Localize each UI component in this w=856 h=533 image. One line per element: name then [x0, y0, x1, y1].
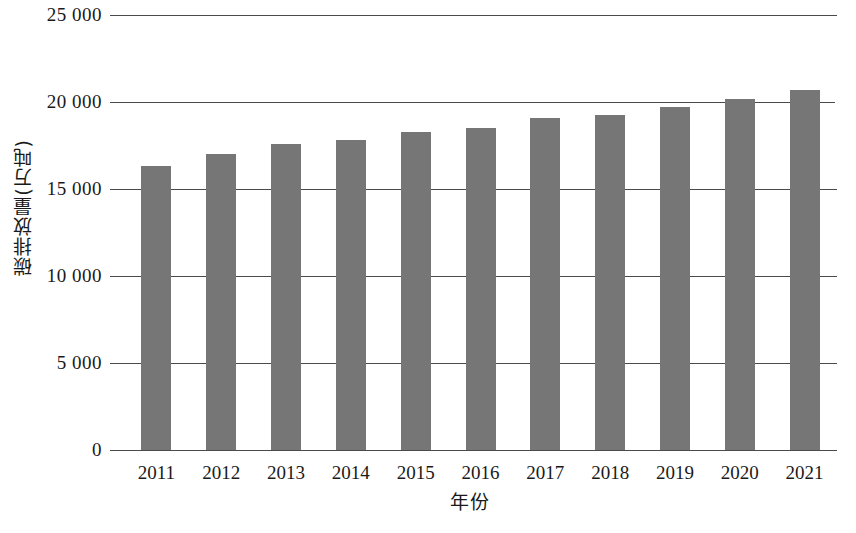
x-axis-tick-label: 2015 — [397, 462, 435, 484]
y-axis-tick — [110, 276, 124, 277]
y-axis-tick — [110, 450, 124, 451]
gridline — [124, 450, 837, 451]
bar-2019[interactable] — [660, 107, 690, 450]
y-axis-tick — [110, 189, 124, 190]
y-axis-tick-label: 10 000 — [47, 265, 102, 287]
bar-2015[interactable] — [401, 132, 431, 450]
x-axis-tick-label: 2017 — [526, 462, 564, 484]
bar-2011[interactable] — [141, 166, 171, 450]
chart-page: 碳排放量(万吨) 05 00010 00015 00020 00025 0002… — [0, 0, 856, 533]
y-axis-tick-label: 15 000 — [47, 178, 102, 200]
x-axis-tick-label: 2018 — [591, 462, 629, 484]
x-axis-title-text: 年份 — [450, 487, 490, 514]
x-axis-tick-label: 2021 — [786, 462, 824, 484]
bar-2017[interactable] — [530, 118, 560, 450]
y-axis-tick-label: 0 — [92, 439, 102, 461]
bar-2012[interactable] — [206, 154, 236, 450]
bar-2013[interactable] — [271, 144, 301, 450]
y-axis-tick — [110, 102, 124, 103]
y-axis-tick-label: 25 000 — [47, 4, 102, 26]
y-axis-tick — [110, 15, 124, 16]
x-axis-tick-label: 2016 — [462, 462, 500, 484]
bar-2014[interactable] — [336, 140, 366, 450]
gridline — [124, 15, 837, 16]
x-axis-title: 年份 — [0, 487, 856, 514]
y-axis-tick — [110, 363, 124, 364]
x-axis-tick-label: 2019 — [656, 462, 694, 484]
y-axis-tick-label: 20 000 — [47, 91, 102, 113]
bar-2016[interactable] — [466, 128, 496, 450]
x-axis-tick-label: 2020 — [721, 462, 759, 484]
y-axis-tick-label: 5 000 — [57, 352, 102, 374]
x-axis-tick-label: 2012 — [202, 462, 240, 484]
bar-2021[interactable] — [790, 90, 820, 450]
bar-2018[interactable] — [595, 115, 625, 450]
bar-2020[interactable] — [725, 99, 755, 450]
plot-area: 05 00010 00015 00020 00025 0002011201220… — [124, 15, 837, 450]
x-axis-tick-label: 2011 — [138, 462, 175, 484]
x-axis-tick-label: 2014 — [332, 462, 370, 484]
y-axis-title: 碳排放量(万吨) — [14, 139, 42, 276]
x-axis-tick-label: 2013 — [267, 462, 305, 484]
